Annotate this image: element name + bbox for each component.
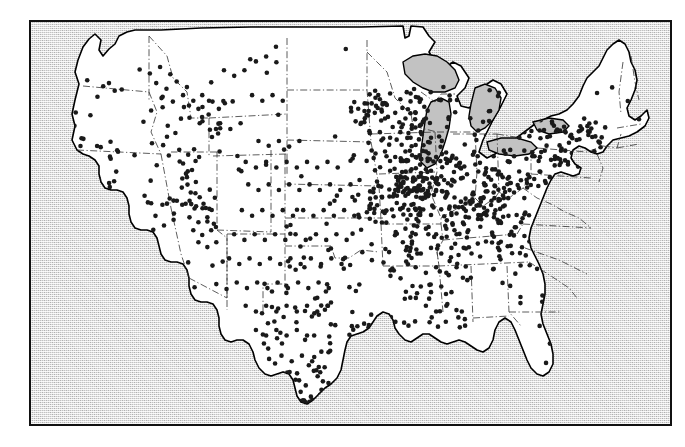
- map-dot: [256, 139, 261, 144]
- map-dot: [465, 230, 470, 235]
- map-dot: [426, 225, 431, 230]
- map-dot: [368, 196, 373, 201]
- map-dot: [492, 211, 497, 216]
- map-dot: [193, 191, 198, 196]
- map-dot: [405, 176, 410, 181]
- map-dot: [284, 333, 289, 338]
- map-dot: [64, 167, 69, 172]
- map-dot: [254, 165, 259, 170]
- map-dot: [386, 115, 391, 120]
- map-dot: [449, 290, 454, 295]
- map-dot: [454, 308, 459, 313]
- map-dot: [191, 98, 196, 103]
- map-dot: [313, 296, 318, 301]
- map-dot: [400, 175, 405, 180]
- map-dot: [503, 151, 508, 156]
- map-dot: [452, 228, 457, 233]
- map-dot: [443, 224, 448, 229]
- map-dot: [432, 235, 437, 240]
- map-dot: [485, 208, 490, 213]
- map-dot: [325, 282, 330, 287]
- map-dot: [200, 105, 205, 110]
- map-dot: [517, 128, 522, 133]
- map-dot: [429, 290, 434, 295]
- map-dot: [317, 313, 322, 318]
- map-dot: [535, 267, 540, 272]
- map-dot: [555, 156, 560, 161]
- map-dot: [413, 117, 418, 122]
- map-dot: [388, 274, 393, 279]
- map-dot: [73, 172, 78, 177]
- map-dot: [400, 159, 405, 164]
- map-dot: [88, 272, 93, 277]
- map-dot: [469, 251, 474, 256]
- map-dot: [478, 196, 483, 201]
- map-dot: [96, 197, 101, 202]
- map-dot: [463, 215, 468, 220]
- map-dot: [250, 213, 255, 218]
- map-dot: [210, 135, 215, 140]
- map-dot: [412, 87, 417, 92]
- map-dot: [81, 283, 86, 288]
- map-dot: [542, 128, 547, 133]
- map-dot: [303, 383, 308, 388]
- map-dot: [246, 182, 251, 187]
- map-dot: [196, 107, 201, 112]
- map-dot: [429, 246, 434, 251]
- map-dot: [192, 285, 197, 290]
- map-dot: [59, 171, 64, 176]
- map-dot: [108, 220, 113, 225]
- map-dot: [406, 107, 411, 112]
- map-dot: [325, 160, 330, 165]
- map-dot: [593, 134, 598, 139]
- map-dot: [442, 178, 447, 183]
- map-dot: [284, 304, 289, 309]
- map-dot: [67, 148, 72, 153]
- map-dot: [350, 231, 355, 236]
- map-dot: [303, 309, 308, 314]
- map-dot: [220, 259, 225, 264]
- map-dot: [238, 121, 243, 126]
- map-dot: [497, 90, 502, 95]
- map-dot: [81, 230, 86, 235]
- map-dot: [526, 172, 531, 177]
- map-dot: [351, 327, 356, 332]
- map-dot: [349, 106, 354, 111]
- map-dot: [520, 245, 525, 250]
- map-dot: [308, 236, 313, 241]
- map-dot: [192, 147, 197, 152]
- map-dot: [380, 102, 385, 107]
- map-dot: [93, 186, 98, 191]
- map-dot: [273, 232, 278, 237]
- map-dot: [84, 168, 89, 173]
- map-dot: [333, 383, 338, 388]
- map-dot: [520, 216, 525, 221]
- map-dot: [475, 154, 480, 159]
- map-dot: [63, 195, 68, 200]
- map-dot: [78, 273, 83, 278]
- map-dot: [424, 271, 429, 276]
- map-dot: [309, 256, 314, 261]
- map-dot: [57, 218, 62, 223]
- map-dot: [277, 188, 282, 193]
- map-dot: [536, 184, 541, 189]
- map-dot: [418, 162, 423, 167]
- map-dot: [307, 363, 312, 368]
- map-dot: [265, 70, 270, 75]
- map-dot: [446, 273, 451, 278]
- map-dot: [527, 213, 532, 218]
- map-dot: [498, 207, 503, 212]
- map-dot: [522, 234, 527, 239]
- map-dot: [501, 214, 506, 219]
- map-dot: [197, 195, 202, 200]
- map-dot: [373, 88, 378, 93]
- map-dot: [474, 203, 479, 208]
- map-dot: [559, 160, 564, 165]
- map-dot: [234, 280, 239, 285]
- map-dot: [130, 298, 135, 303]
- map-dot: [48, 204, 53, 209]
- map-dot: [405, 136, 410, 141]
- map-dot: [463, 196, 468, 201]
- map-dot: [287, 144, 292, 149]
- map-dot: [310, 314, 315, 319]
